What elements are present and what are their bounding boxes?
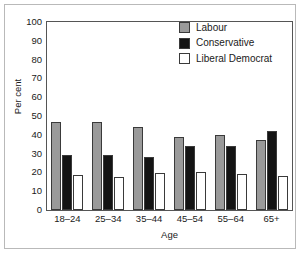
y-axis-tick-label: 20 — [31, 168, 42, 178]
bar-liberal-democrat[interactable] — [73, 175, 83, 210]
bar-liberal-democrat[interactable] — [155, 173, 165, 210]
bar-conservative[interactable] — [62, 155, 72, 210]
x-axis-tick-labels: 18–2425–3435–4445–5455–6465+ — [47, 214, 292, 228]
bar-labour[interactable] — [215, 135, 225, 210]
legend-swatch-icon — [179, 38, 190, 49]
bar-labour[interactable] — [92, 122, 102, 210]
bar-conservative[interactable] — [144, 157, 154, 210]
y-axis-tick-label: 10 — [31, 186, 42, 196]
y-axis-tick-label: 80 — [31, 55, 42, 65]
y-axis-tick-label: 60 — [31, 92, 42, 102]
bar-conservative[interactable] — [185, 146, 195, 210]
legend-swatch-icon — [179, 53, 190, 64]
legend-item-conservative[interactable]: Conservative — [179, 37, 291, 50]
y-axis-tick-label: 40 — [31, 130, 42, 140]
legend-label: Conservative — [196, 38, 254, 48]
y-axis-tick-label: 50 — [31, 111, 42, 121]
figure-frame: 0102030405060708090100 Per cent 18–2425–… — [4, 4, 296, 249]
x-axis-title: Age — [46, 229, 293, 240]
legend-item-labour[interactable]: Labour — [179, 21, 291, 34]
legend-label: Liberal Democrat — [196, 54, 272, 64]
bar-liberal-democrat[interactable] — [278, 176, 288, 210]
bar-labour[interactable] — [256, 140, 266, 210]
legend-swatch-icon — [179, 22, 190, 33]
bar-labour[interactable] — [133, 127, 143, 210]
bar-group — [47, 22, 88, 210]
y-axis-tick-label: 90 — [31, 36, 42, 46]
y-axis-tick-label: 30 — [31, 149, 42, 159]
legend-label: Labour — [196, 23, 227, 33]
y-axis-title: Per cent — [12, 67, 23, 127]
bar-liberal-democrat[interactable] — [196, 172, 206, 210]
bar-liberal-democrat[interactable] — [237, 174, 247, 210]
legend: LabourConservativeLiberal Democrat — [179, 21, 291, 68]
bar-group — [129, 22, 170, 210]
legend-item-liberal-democrat[interactable]: Liberal Democrat — [179, 52, 291, 65]
x-axis-tick-label: 55–64 — [218, 214, 244, 224]
y-axis-tick-label: 70 — [31, 74, 42, 84]
bar-conservative[interactable] — [226, 146, 236, 210]
x-axis-tick-label: 65+ — [264, 214, 280, 224]
bar-liberal-democrat[interactable] — [114, 177, 124, 210]
bar-labour[interactable] — [51, 122, 61, 210]
x-axis-tick-label: 45–54 — [177, 214, 203, 224]
y-axis-tick-label: 100 — [26, 17, 42, 27]
x-axis-tick-label: 35–44 — [136, 214, 162, 224]
bar-labour[interactable] — [174, 137, 184, 210]
y-axis-tick-label: 0 — [37, 205, 42, 215]
bar-conservative[interactable] — [103, 155, 113, 210]
bar-group — [88, 22, 129, 210]
x-axis-tick-label: 18–24 — [54, 214, 80, 224]
bar-conservative[interactable] — [267, 131, 277, 210]
x-axis-tick-label: 25–34 — [95, 214, 121, 224]
